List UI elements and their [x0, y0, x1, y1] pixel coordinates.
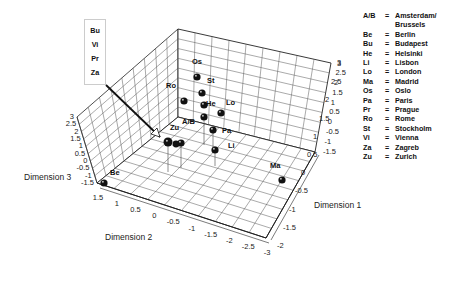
svg-text:St: St: [207, 76, 215, 85]
legend-abbr: Pa: [363, 96, 385, 105]
svg-text:2: 2: [325, 95, 329, 104]
svg-text:-2.5: -2.5: [242, 242, 255, 251]
svg-text:He: He: [206, 99, 216, 108]
legend-equals: =: [385, 58, 395, 67]
legend-name: Lisbon: [395, 58, 419, 67]
svg-text:Li: Li: [228, 141, 235, 150]
svg-text:1: 1: [331, 98, 335, 107]
legend-name: Zurich: [395, 152, 417, 161]
legend-entry: Lo=London: [363, 67, 437, 76]
legend-name: Prague: [395, 105, 419, 114]
y-axis-label: Dimension 2: [105, 232, 153, 242]
svg-text:Pa: Pa: [222, 126, 232, 135]
svg-text:Ro: Ro: [166, 81, 176, 90]
legend-abbr: Li: [363, 58, 385, 67]
svg-text:Zu: Zu: [170, 123, 180, 132]
legend-abbr: Zu: [363, 152, 385, 161]
callout-label: Pr: [85, 52, 105, 66]
legend-equals: =: [385, 30, 395, 39]
legend-name: Vienna: [395, 133, 418, 142]
legend-abbr: Ro: [363, 114, 385, 123]
legend-name: Brussels: [395, 20, 425, 29]
legend-abbr: Bu: [363, 39, 385, 48]
svg-text:0.5: 0.5: [329, 107, 339, 116]
legend-abbr: He: [363, 49, 385, 58]
legend-entry: Bu=Budapest: [363, 39, 437, 48]
svg-text:-1.5: -1.5: [204, 230, 217, 239]
svg-text:-1.5: -1.5: [81, 178, 94, 187]
legend-equals: =: [385, 77, 395, 86]
legend-abbr: Ma: [363, 77, 385, 86]
svg-text:3: 3: [337, 58, 341, 67]
svg-text:Ma: Ma: [270, 161, 281, 170]
svg-text:0: 0: [152, 211, 156, 220]
svg-text:0.5: 0.5: [130, 205, 140, 214]
svg-text:0: 0: [301, 168, 305, 177]
legend-name: Zagreb: [395, 143, 419, 152]
legend-equals: =: [385, 133, 395, 142]
svg-text:2: 2: [334, 78, 338, 87]
svg-text:1.5: 1.5: [93, 193, 103, 202]
svg-text:-2: -2: [226, 236, 233, 245]
svg-text:Be: Be: [110, 168, 120, 177]
legend-equals: =: [385, 67, 395, 76]
legend-entry: He=Helsinki: [363, 49, 437, 58]
legend-entry: St=Stockholm: [363, 124, 437, 133]
legend: A/B=Amsterdam/BrusselsBe=BerlinBu=Budape…: [363, 11, 437, 162]
svg-text:-2: -2: [277, 241, 284, 250]
x-axis-label: Dimension 1: [314, 200, 362, 210]
callout-box: Bu Vi Pr Za: [84, 19, 106, 85]
svg-text:1: 1: [115, 199, 119, 208]
legend-entry: Os=Oslo: [363, 86, 437, 95]
svg-text:-3: -3: [264, 248, 271, 257]
legend-entry: Pa=Paris: [363, 96, 437, 105]
legend-name: Rome: [395, 114, 415, 123]
legend-name: Berlin: [395, 30, 415, 39]
legend-abbr: St: [363, 124, 385, 133]
legend-equals: =: [385, 143, 395, 152]
callout-label: Za: [85, 66, 105, 80]
legend-name: Oslo: [395, 86, 411, 95]
legend-abbr: Lo: [363, 67, 385, 76]
svg-text:1.5: 1.5: [332, 88, 342, 97]
svg-text:0.5: 0.5: [307, 150, 317, 159]
svg-text:2.5: 2.5: [335, 68, 345, 77]
legend-entry: Li=Lisbon: [363, 58, 437, 67]
svg-text:-0.5: -0.5: [326, 127, 339, 136]
legend-abbr: Os: [363, 86, 385, 95]
svg-text:-0.5: -0.5: [295, 186, 308, 195]
svg-text:A/B: A/B: [182, 117, 196, 126]
callout-label: Vi: [85, 38, 105, 52]
svg-text:Os: Os: [192, 57, 202, 66]
svg-text:Lo: Lo: [226, 98, 236, 107]
legend-abbr: Pr: [363, 105, 385, 114]
legend-equals: =: [385, 11, 395, 20]
legend-equals: =: [385, 96, 395, 105]
legend-entry: Pr=Prague: [363, 105, 437, 114]
svg-text:-1: -1: [325, 137, 332, 146]
legend-entry: Za=Zagreb: [363, 143, 437, 152]
legend-name: Budapest: [395, 39, 428, 48]
legend-equals: =: [385, 86, 395, 95]
legend-name: Helsinki: [395, 49, 423, 58]
legend-entry: Ro=Rome: [363, 114, 437, 123]
legend-equals: =: [385, 152, 395, 161]
svg-text:0: 0: [328, 117, 332, 126]
legend-name: London: [395, 67, 421, 76]
svg-text:-0.5: -0.5: [167, 217, 180, 226]
svg-text:-1: -1: [189, 224, 196, 233]
legend-name: Paris: [395, 96, 413, 105]
legend-equals: =: [385, 39, 395, 48]
legend-equals: =: [385, 105, 395, 114]
legend-equals: =: [385, 124, 395, 133]
legend-entry: Zu=Zurich: [363, 152, 437, 161]
legend-entry: Brussels: [363, 20, 437, 29]
z-axis-label: Dimension 3: [24, 172, 72, 182]
legend-equals: =: [385, 49, 395, 58]
legend-name: Madrid: [395, 77, 419, 86]
legend-name: Amsterdam/: [395, 11, 437, 20]
callout-label: Bu: [85, 24, 105, 38]
legend-abbr: Vi: [363, 133, 385, 142]
svg-text:-1.5: -1.5: [323, 147, 336, 156]
legend-entry: Vi=Vienna: [363, 133, 437, 142]
